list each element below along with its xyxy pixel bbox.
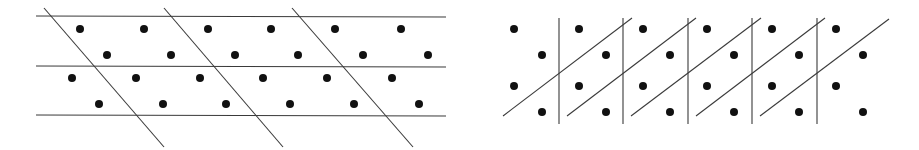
lattice-point — [602, 51, 610, 59]
cell-boundary-line — [696, 18, 825, 116]
lattice-point — [388, 74, 396, 82]
lattice-point — [795, 108, 803, 116]
lattice-point — [666, 108, 674, 116]
right-lattice-diagram — [503, 18, 889, 124]
lattice-point — [167, 51, 175, 59]
cell-boundary-line — [631, 18, 761, 116]
cell-boundary-line — [760, 19, 889, 116]
lattice-point — [196, 74, 204, 82]
lattice-point — [140, 25, 148, 33]
cell-boundary-line — [36, 16, 446, 17]
lattice-point — [267, 25, 275, 33]
lattice-point — [132, 74, 140, 82]
lattice-point — [575, 82, 583, 90]
left-lattice-diagram — [36, 8, 446, 147]
cell-boundary-line — [567, 18, 696, 116]
lattice-point — [68, 74, 76, 82]
lattice-point — [703, 25, 711, 33]
lattice-point — [510, 82, 518, 90]
cell-boundary-line — [36, 115, 446, 116]
cell-boundary-line — [36, 66, 446, 67]
lattice-point — [832, 25, 840, 33]
lattice-point — [222, 100, 230, 108]
lattice-point — [415, 100, 423, 108]
lattice-point — [76, 25, 84, 33]
lattice-point — [510, 25, 518, 33]
lattice-point — [286, 100, 294, 108]
lattice-point — [832, 82, 840, 90]
lattice-point — [730, 51, 738, 59]
lattice-point — [768, 25, 776, 33]
lattice-point — [859, 108, 867, 116]
lattice-point — [795, 51, 803, 59]
lattice-point — [323, 74, 331, 82]
lattice-point — [204, 25, 212, 33]
lattice-point — [575, 25, 583, 33]
lattice-point — [639, 82, 647, 90]
lattice-point — [538, 51, 546, 59]
lattice-point — [639, 25, 647, 33]
lattice-point — [294, 51, 302, 59]
lattice-point — [859, 51, 867, 59]
cell-boundary-line — [503, 18, 632, 116]
lattice-point — [768, 82, 776, 90]
lattice-point — [159, 100, 167, 108]
lattice-diagrams — [0, 0, 919, 150]
lattice-point — [703, 82, 711, 90]
lattice-point — [359, 51, 367, 59]
lattice-point — [103, 51, 111, 59]
lattice-point — [730, 108, 738, 116]
lattice-point — [666, 51, 674, 59]
lattice-point — [331, 25, 339, 33]
lattice-point — [231, 51, 239, 59]
lattice-point — [350, 100, 358, 108]
lattice-point — [397, 25, 405, 33]
lattice-point — [424, 51, 432, 59]
lattice-point — [259, 74, 267, 82]
lattice-point — [95, 100, 103, 108]
lattice-point — [538, 108, 546, 116]
lattice-point — [602, 108, 610, 116]
